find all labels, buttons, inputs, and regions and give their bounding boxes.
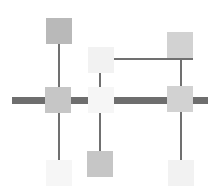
connector-middle-left-to-bottom-left: [58, 112, 60, 161]
node-middle-center: [88, 87, 114, 113]
connector-top-left-to-middle-left: [58, 44, 60, 88]
node-top-right: [167, 32, 193, 58]
node-middle-right: [167, 86, 193, 112]
connector-middle-right-to-bottom-right: [180, 112, 182, 161]
connector-middle-center-to-bottom-center: [99, 112, 101, 151]
node-bottom-right: [168, 160, 194, 186]
connector-diagram: [0, 0, 216, 189]
node-top-left: [46, 18, 72, 44]
connector-top-center-to-middle-center: [99, 72, 101, 87]
node-bottom-center: [87, 151, 113, 177]
connector-top-right-to-middle-right: [180, 59, 182, 87]
node-top-center: [88, 47, 114, 73]
node-middle-left: [45, 87, 71, 113]
node-bottom-left: [46, 160, 72, 186]
